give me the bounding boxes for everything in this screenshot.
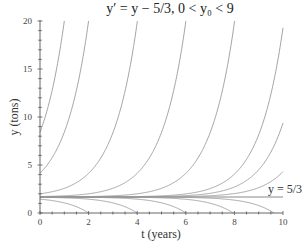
solution-curve-growth-0 xyxy=(40,21,64,132)
x-tick-label: 2 xyxy=(86,217,91,227)
x-tick-label: 8 xyxy=(232,217,237,227)
solution-curve-growth-1 xyxy=(40,21,89,173)
y-tick-label: 5 xyxy=(28,160,33,170)
y-tick-label: 0 xyxy=(28,208,33,218)
solution-curve-growth-7 xyxy=(40,172,283,197)
solution-curve-decay-12 xyxy=(40,197,274,213)
equilibrium-label: y = 5/3 xyxy=(268,182,302,196)
chart-title: y′ = y − 5/3, 0 < y₀ < 9 xyxy=(106,1,233,16)
x-tick-label: 6 xyxy=(184,217,189,227)
x-tick-label: 10 xyxy=(279,217,289,227)
solution-curve-growth-2 xyxy=(40,21,137,194)
x-tick-label: 0 xyxy=(38,217,43,227)
solution-curve-decay-9 xyxy=(40,197,137,213)
y-tick-label: 20 xyxy=(23,16,33,26)
axes-group xyxy=(40,20,283,213)
y-tick-label: 15 xyxy=(23,64,33,74)
solution-curve-decay-8 xyxy=(40,199,89,213)
x-tick-label: 4 xyxy=(135,217,140,227)
solution-curve-growth-3 xyxy=(40,21,186,197)
curves-group xyxy=(40,21,283,213)
y-tick-label: 10 xyxy=(23,112,33,122)
solution-curve-growth-5 xyxy=(40,28,283,197)
y-axis-label: y (tons) xyxy=(7,99,21,136)
x-axis-label: t (years) xyxy=(141,227,181,241)
solution-curve-decay-10 xyxy=(40,197,186,213)
chart: y′ = y − 5/3, 0 < y₀ < 9 024681005101520… xyxy=(0,0,306,249)
solution-curve-growth-4 xyxy=(40,21,235,197)
ticks-group: 024681005101520 xyxy=(23,16,288,227)
